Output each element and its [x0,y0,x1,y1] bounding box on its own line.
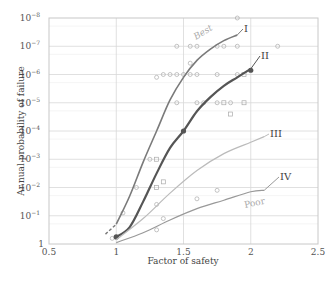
y-tick-label: 10−8 [20,11,40,23]
annotation-poor: Poor [243,196,266,210]
curve-label-i: I [244,23,248,34]
label-leader-line [264,134,269,137]
data-point-circle [215,188,219,192]
data-point-circle [195,197,199,201]
y-tick-label: 10−7 [20,39,40,51]
y-tick-label: 10−1 [20,209,40,221]
x-tick-label: 2 [248,247,254,257]
x-axis-title: Factor of safety [147,256,219,266]
data-point-square [161,180,165,184]
x-tick-label: 0.5 [42,247,57,257]
data-point-circle [188,61,192,65]
label-leader-line [264,177,279,190]
curve-i-extrapolation [105,224,116,234]
data-point-circle [155,75,159,79]
annotation-best: Best [191,22,215,42]
x-tick-label: 2.5 [311,247,326,257]
y-axis-title: Ar.nual probability of failure [16,66,26,196]
x-tick-label: 1 [113,247,119,257]
curve-label-iii: III [270,128,282,139]
data-point-square [229,112,233,116]
data-point-circle [110,236,114,240]
curves [105,29,279,243]
curve-label-iv: IV [280,171,292,182]
chart: 110−110−210−310−410−510−610−710−8 0.511.… [0,0,336,283]
curve-label-ii: II [261,50,269,61]
label-leader-line [251,56,260,69]
data-point-circle [161,217,165,221]
label-leader-line [237,29,243,35]
data-point-circle [155,228,159,232]
curve-iv [116,190,264,242]
curve-marker [181,128,186,133]
